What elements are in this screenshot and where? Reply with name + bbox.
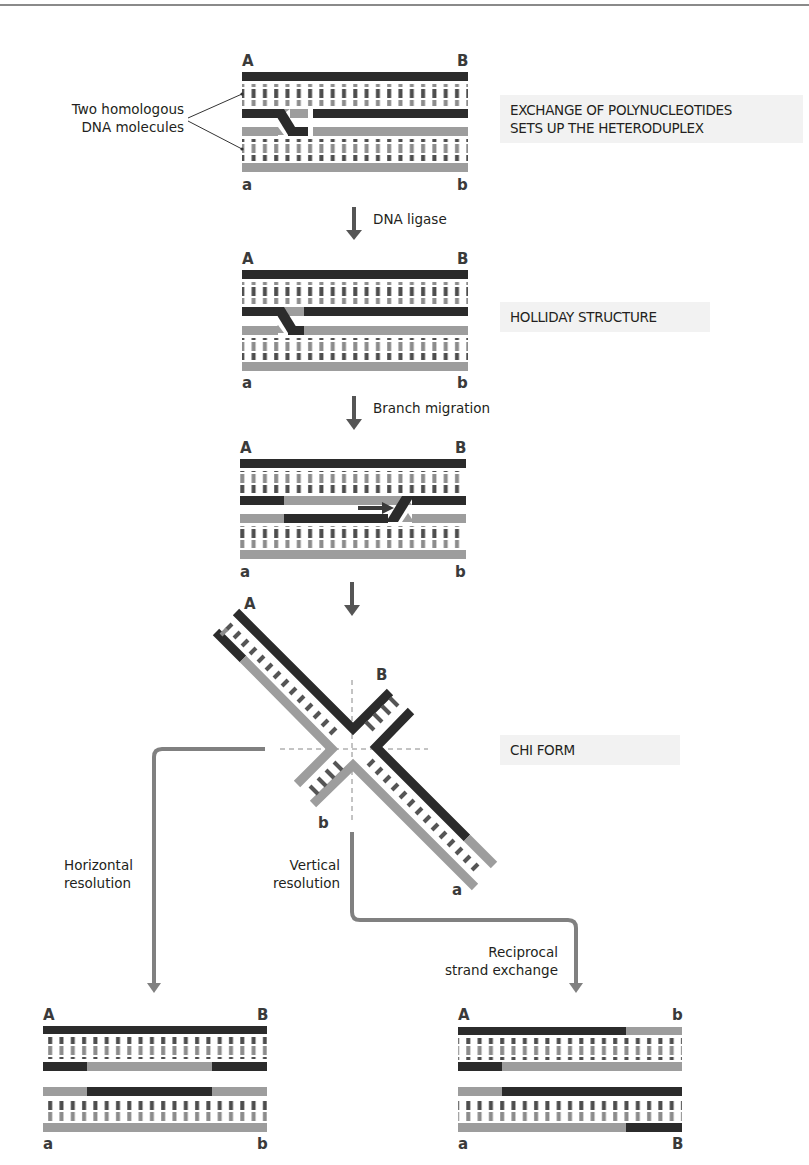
stage-label-line: SETS UP THE HETERODUPLEX [510,119,793,137]
stage-1-duplexes: A B a b [188,52,468,194]
label-line: strand exchange [420,961,558,979]
step-arrow-branch-migration [346,396,362,430]
stage-label-chi: CHI FORM [500,735,680,765]
end-label: B [457,52,468,70]
step-arrow-ligase [346,207,362,240]
label-horizontal-resolution: Horizontal resolution [64,856,133,892]
step-label-ligase: DNA ligase [373,210,447,228]
stage-label-line: EXCHANGE OF POLYNUCLEOTIDES [510,101,793,119]
rungs-lr [368,760,478,870]
end-label: a [452,881,462,899]
end-label: A [458,1006,470,1024]
label-reciprocal-strand-exchange: Reciprocal strand exchange [420,943,558,979]
holliday-model-diagram: A B a b A B a b [0,0,809,1165]
callout-line: DNA molecules [60,118,184,136]
end-label: b [457,374,468,392]
end-label: A [244,595,256,613]
end-label: b [672,1006,683,1024]
horizontal-product: A B a b [43,1006,268,1153]
end-label: b [457,176,468,194]
strand-top-inner-left [242,109,278,118]
end-label: B [457,250,468,268]
stage-label-holliday: HOLLIDAY STRUCTURE [500,302,710,332]
end-label: B [376,666,387,684]
end-label: b [318,814,329,832]
end-label: B [455,439,466,457]
strand-A-top [242,72,468,81]
base-pairs [242,84,468,106]
label-line: resolution [64,874,133,892]
step-arrow-rotation [344,582,360,616]
callout-homologous-dna: Two homologous DNA molecules [60,100,184,136]
end-label: B [672,1135,683,1153]
end-label: a [240,563,250,581]
step-label-branch-migration: Branch migration [373,399,490,417]
label-line: Horizontal [64,856,133,874]
end-label: A [43,1006,55,1024]
end-label: A [242,52,254,70]
end-label: B [257,1006,268,1024]
stage-label-line: HOLLIDAY STRUCTURE [510,308,700,326]
end-label: a [242,374,252,392]
end-label: b [257,1135,268,1153]
end-label: a [242,176,252,194]
stage-label-heteroduplex: EXCHANGE OF POLYNUCLEOTIDES SETS UP THE … [500,95,803,143]
label-line: Vertical [236,856,340,874]
stage-label-line: CHI FORM [510,741,670,759]
strand-a-bottom [242,163,468,172]
end-label: b [455,563,466,581]
end-label: A [240,439,252,457]
end-label: a [43,1135,53,1153]
callout-line: Two homologous [60,100,184,118]
end-label: a [458,1135,468,1153]
label-line: resolution [236,874,340,892]
stage-3-duplexes: A B a b [240,439,466,581]
rungs-ul [221,624,336,734]
stage-2-duplexes: A B a b [242,250,468,392]
label-line: Reciprocal [420,943,558,961]
vertical-product: A b a B [458,1006,683,1153]
end-label: A [242,250,254,268]
label-vertical-resolution: Vertical resolution [236,856,340,892]
